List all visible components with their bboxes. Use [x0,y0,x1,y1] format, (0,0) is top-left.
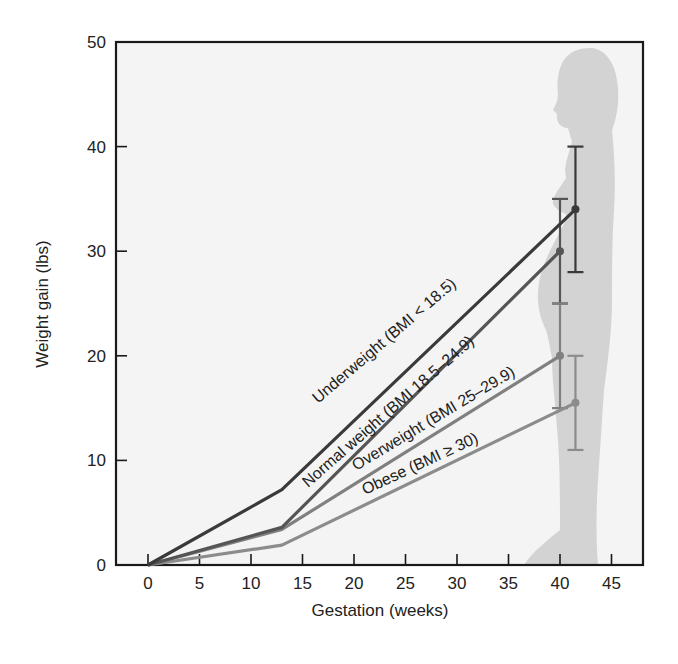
x-axis-title: Gestation (weeks) [312,601,449,620]
y-tick-label: 30 [87,242,106,261]
weight-gain-chart: 01020304050 051015202530354045 Underweig… [0,0,678,664]
endpoint-marker-overweight [556,352,564,360]
y-tick-label: 50 [87,33,106,52]
x-tick-label: 45 [602,574,621,593]
x-tick-label: 35 [499,574,518,593]
y-axis-title: Weight gain (lbs) [33,240,52,367]
x-tick-label: 0 [143,574,152,593]
y-tick-label: 20 [87,347,106,366]
endpoint-marker-underweight [571,205,579,213]
y-tick-label: 10 [87,451,106,470]
x-tick-label: 40 [551,574,570,593]
x-tick-label: 30 [448,574,467,593]
endpoint-marker-obese [571,399,579,407]
y-tick-label: 40 [87,138,106,157]
x-tick-label: 25 [396,574,415,593]
x-tick-label: 10 [242,574,261,593]
x-tick-label: 5 [195,574,204,593]
x-tick-label: 15 [293,574,312,593]
endpoint-marker-normal-weight [556,247,564,255]
x-tick-label: 20 [345,574,364,593]
y-tick-label: 0 [97,556,106,575]
